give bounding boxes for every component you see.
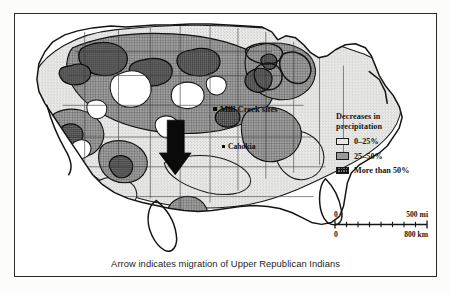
scale-bar-miles-row: 0 500 mi (334, 210, 428, 219)
scale-bar-km-row: 0 800 km (334, 230, 428, 239)
map-frame: Mill Creek sites Cahokia Decreases in pr… (14, 13, 437, 277)
legend-label: 0–25% (354, 137, 379, 146)
scale-km-max: 800 km (404, 230, 428, 239)
scale-bar: 0 500 mi 0 800 km (334, 210, 428, 239)
legend-label: More than 50% (354, 166, 409, 175)
site-marker-icon (222, 145, 225, 148)
legend-item-more-than-50: More than 50% (336, 166, 428, 175)
legend-title: Decreases in precipitation (336, 112, 428, 131)
legend-item-25-50: 25–50% (336, 152, 428, 161)
figure-caption: Arrow indicates migration of Upper Repub… (15, 258, 436, 269)
figure-root: Mill Creek sites Cahokia Decreases in pr… (0, 0, 450, 295)
map-label-text: Mill Creek sites (220, 104, 278, 114)
map-label-mill-creek-sites: Mill Creek sites (213, 104, 278, 114)
scale-miles-zero: 0 (334, 210, 338, 219)
legend-swatch-light-stipple-icon (336, 138, 349, 146)
scale-bar-ticks-icon (334, 220, 428, 229)
legend-title-line-2: precipitation (336, 122, 428, 132)
legend-swatch-dense-crosshatch-icon (336, 167, 349, 175)
scale-miles-max: 500 mi (406, 210, 428, 219)
scale-km-zero: 0 (334, 230, 338, 239)
site-marker-icon (213, 107, 217, 111)
legend-title-line-1: Decreases in (336, 112, 428, 122)
legend: Decreases in precipitation 0–25% 25–50% … (336, 112, 428, 181)
legend-item-0-25: 0–25% (336, 137, 428, 146)
legend-label: 25–50% (354, 152, 383, 161)
map-label-cahokia: Cahokia (222, 142, 255, 151)
legend-swatch-mid-crosshatch-icon (336, 152, 349, 160)
map-label-text: Cahokia (228, 142, 255, 151)
